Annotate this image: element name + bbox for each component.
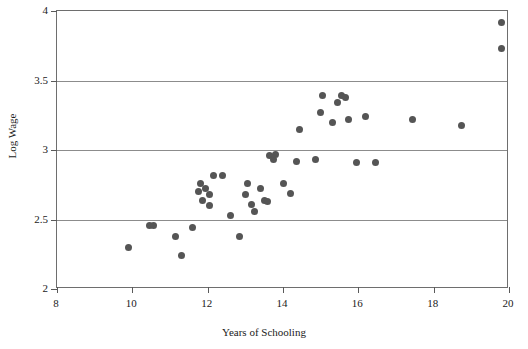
x-tick-label: 20 [488,298,528,309]
data-point [334,99,341,106]
data-point [293,158,300,165]
data-point [296,126,303,133]
data-point [409,116,416,123]
x-axis-tick [434,287,435,293]
data-point [345,116,352,123]
y-tick-label: 2 [4,283,48,294]
data-point [498,19,505,26]
x-axis-title: Years of Schooling [0,326,528,338]
y-axis-tick [51,81,57,82]
data-point [257,185,264,192]
plot-area [56,10,508,288]
x-tick-label: 14 [262,298,302,309]
y-tick-label: 2.5 [4,214,48,225]
data-point [458,122,465,129]
gridline [57,220,507,221]
data-point [319,92,326,99]
data-point [372,159,379,166]
x-axis-tick [132,287,133,293]
data-point [189,224,196,231]
data-point [150,222,157,229]
x-tick-label: 12 [187,298,227,309]
data-point [244,180,251,187]
y-tick-label: 3.5 [4,75,48,86]
data-point [342,94,349,101]
data-point [312,156,319,163]
data-point [362,113,369,120]
data-point [272,151,279,158]
x-axis-tick [208,287,209,293]
data-point [172,233,179,240]
data-point [195,188,202,195]
data-point [236,233,243,240]
gridline [57,150,507,151]
data-point [210,172,217,179]
data-point [264,198,271,205]
data-point [317,109,324,116]
y-axis-title: Log Wage [6,96,18,176]
data-point [125,244,132,251]
data-point [353,159,360,166]
scatter-plot-figure: 2 2.5 3 3.5 4 8101214161820 Years of Sch… [0,0,528,349]
data-point [251,208,258,215]
data-point [206,202,213,209]
data-point [206,191,213,198]
data-point [178,252,185,259]
data-point [498,45,505,52]
y-tick-label: 4 [4,5,48,16]
x-tick-label: 16 [337,298,377,309]
x-tick-label: 8 [36,298,76,309]
x-axis-tick [57,287,58,293]
data-point [227,212,234,219]
y-axis-tick [51,150,57,151]
x-axis-tick [509,287,510,293]
data-point [199,197,206,204]
y-axis-tick [51,11,57,12]
data-point [248,201,255,208]
data-point [329,119,336,126]
y-axis-tick [51,220,57,221]
x-tick-label: 10 [111,298,151,309]
data-point [280,180,287,187]
data-point [219,172,226,179]
x-tick-label: 18 [413,298,453,309]
data-point [242,191,249,198]
x-axis-tick [283,287,284,293]
x-axis-tick [358,287,359,293]
data-point [287,190,294,197]
gridline [57,81,507,82]
